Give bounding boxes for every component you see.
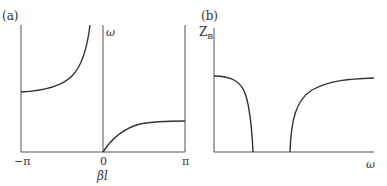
figure: (a) ω −π 0 π βl (b) ZB ω — [0, 0, 387, 186]
x-tick-pi: π — [182, 155, 189, 168]
upper-branch-curve — [21, 25, 90, 92]
high-passband-curve — [290, 78, 374, 152]
y-axis-label: ω — [106, 26, 115, 39]
panel-b-label: (b) — [201, 9, 218, 23]
lower-branch-curve — [103, 121, 185, 152]
x-axis-label: ω — [366, 158, 375, 171]
panel-b: (b) ZB ω — [199, 9, 375, 171]
low-passband-curve — [214, 76, 253, 152]
y-axis-label: ZB — [199, 25, 213, 41]
panel-a-label: (a) — [2, 9, 19, 23]
x-tick-neg-pi: −π — [14, 155, 30, 168]
panel-a: (a) ω −π 0 π βl — [2, 9, 189, 183]
x-axis-label: βl — [96, 169, 108, 183]
x-tick-zero: 0 — [100, 155, 107, 168]
